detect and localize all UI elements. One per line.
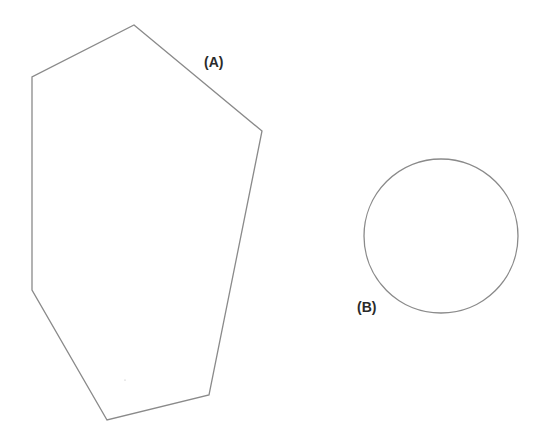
stray-dot [124, 379, 125, 380]
shape-b-label: (B) [357, 299, 376, 315]
diagram-canvas: (A) (B) [0, 0, 544, 438]
hexagon-shape-a [32, 25, 262, 420]
shape-a-label: (A) [204, 54, 223, 70]
diagram-svg: (A) (B) [0, 0, 544, 438]
circle-shape-b [364, 159, 518, 313]
